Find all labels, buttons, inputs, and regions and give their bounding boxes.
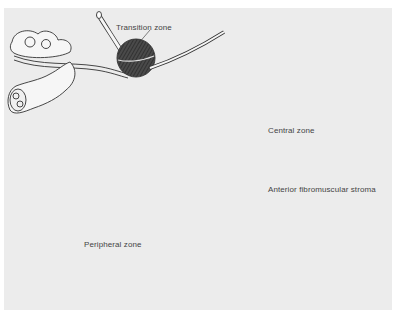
- prostate-zones-illustration: [0, 0, 397, 316]
- label-anterior-fibromuscular-stroma: Anterior fibromuscular stroma: [268, 185, 376, 194]
- label-central-zone: Central zone: [268, 126, 315, 135]
- label-transition-zone: Transition zone: [116, 23, 172, 32]
- label-peripheral-zone: Peripheral zone: [84, 240, 142, 249]
